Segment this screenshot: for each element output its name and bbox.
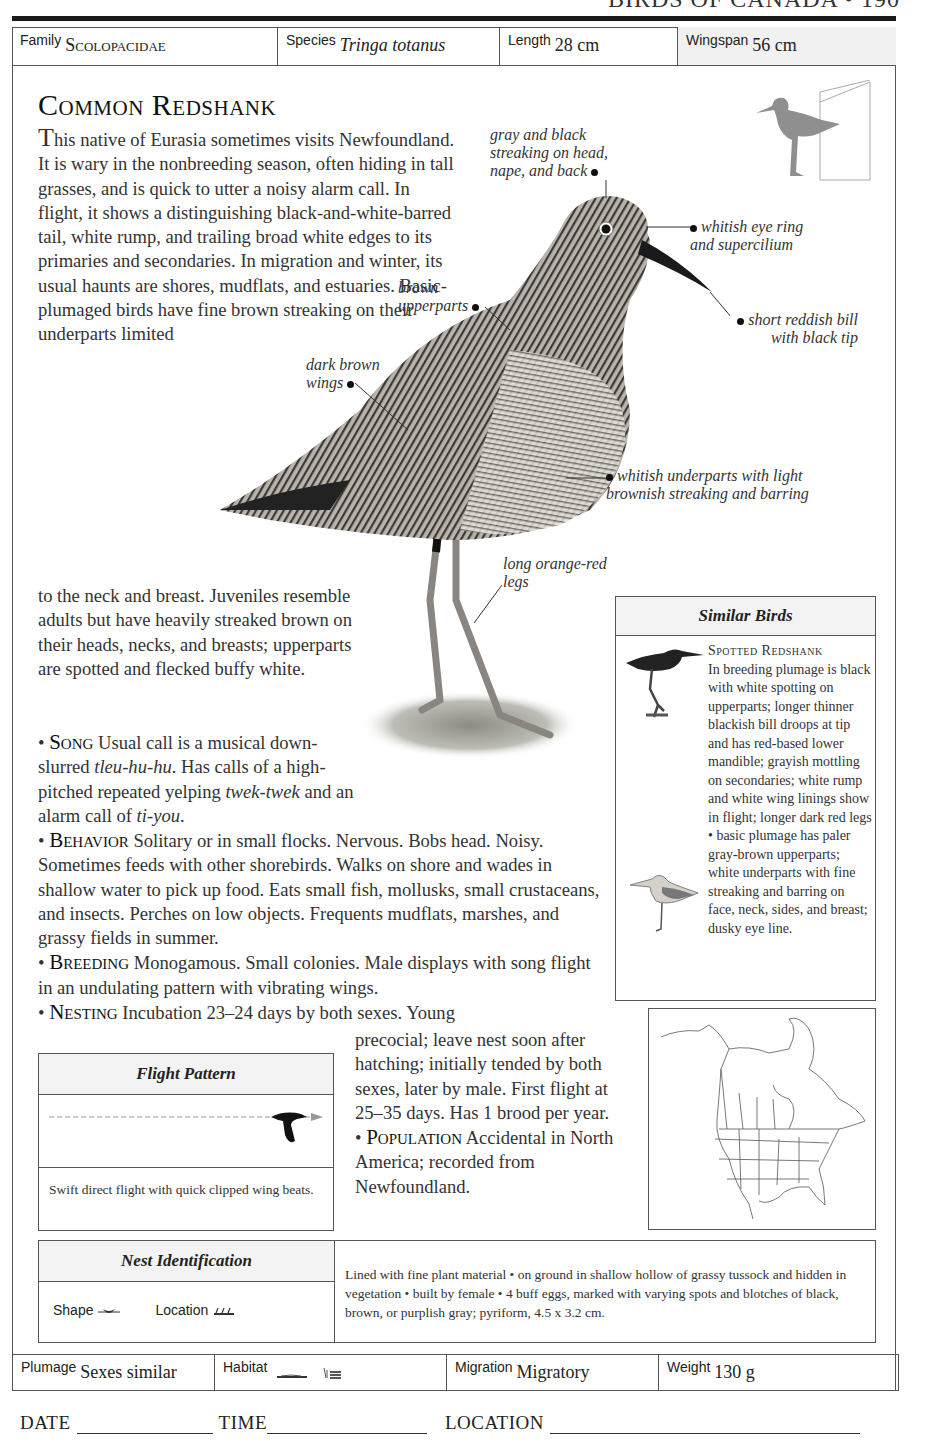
spotted-redshank-basic-icon: [628, 871, 702, 937]
similar-bird-name: Spotted Redshank: [708, 642, 874, 661]
callout-eye: whitish eye ring and supercilium: [690, 218, 830, 254]
behavior-breeding-section: • Behavior Solitary or in small flocks. …: [38, 828, 608, 1025]
flight-path-icon: [39, 1095, 333, 1167]
similar-birds-box: Similar Birds Spotted Redshank In breedi…: [615, 596, 876, 1001]
nest-identification-box: Nest Identification Shape Location Lined…: [38, 1240, 876, 1343]
plumage-value: Sexes similar: [80, 1362, 177, 1382]
population-paragraph: • Population Accidental in North America…: [355, 1125, 635, 1199]
breeding-heading: Breeding: [49, 950, 129, 974]
wingspan-label: Wingspan: [686, 32, 748, 48]
flight-pattern-description: Swift direct flight with quick clipped w…: [39, 1168, 333, 1211]
callout-upperparts: brown upperparts: [398, 279, 488, 315]
running-head: BIRDS OF CANADA • 190: [560, 0, 900, 13]
family-value: Scolopacidae: [65, 35, 166, 55]
species-label: Species: [286, 32, 336, 48]
species-cell: SpeciesTringa totanus: [278, 27, 500, 65]
intro-dropcap: T: [38, 123, 54, 152]
weight-value: 130 g: [714, 1362, 755, 1382]
cup-nest-icon: [97, 1305, 121, 1317]
shore-icon: [275, 1366, 309, 1380]
spotted-redshank-breeding-icon: [624, 645, 706, 725]
callout-dot: [591, 169, 598, 176]
flight-pattern-heading: Flight Pattern: [39, 1054, 333, 1095]
nest-shape: Shape: [53, 1302, 121, 1318]
callout-dot: [606, 474, 613, 481]
callout-dot: [472, 304, 479, 311]
species-title: Common Redshank: [38, 88, 276, 122]
ground-grass-icon: [212, 1305, 236, 1317]
nesting-paragraph-rest: precocial; leave nest soon after hatchin…: [355, 1028, 635, 1125]
weight-cell: Weight130 g: [659, 1355, 898, 1390]
length-value: 28 cm: [555, 35, 600, 55]
similar-bird-description: Spotted Redshank In breeding plumage is …: [708, 642, 874, 938]
nesting-heading: Nesting: [49, 1000, 118, 1024]
top-rule: [12, 16, 896, 21]
nest-identification-left: Nest Identification Shape Location: [39, 1241, 335, 1342]
callout-dot: [737, 318, 744, 325]
wingspan-cell: Wingspan56 cm: [678, 27, 896, 65]
north-america-map-icon: [649, 1009, 874, 1228]
date-field[interactable]: [77, 1419, 213, 1434]
time-label: TIME: [219, 1412, 267, 1434]
callout-head: gray and black streaking on head, nape, …: [490, 126, 630, 180]
observation-log: DATE TIME LOCATION: [20, 1412, 900, 1434]
wingspan-value: 56 cm: [752, 35, 797, 55]
plumage-cell: PlumageSexes similar: [13, 1355, 215, 1390]
plumage-label: Plumage: [21, 1359, 76, 1375]
species-value: Tringa totanus: [340, 35, 446, 55]
bird-size-silhouette-icon: [752, 80, 882, 184]
range-map: [648, 1008, 876, 1230]
callout-underparts: whitish underparts with light brownish s…: [606, 467, 836, 503]
time-field[interactable]: [267, 1419, 427, 1434]
nest-identification-heading: Nest Identification: [39, 1241, 334, 1282]
breeding-paragraph: • Breeding Monogamous. Small colonies. M…: [38, 950, 608, 1000]
family-label: Family: [20, 32, 61, 48]
length-label: Length: [508, 32, 551, 48]
weight-label: Weight: [667, 1359, 710, 1375]
callout-wings: dark brown wings: [306, 356, 396, 392]
nest-location: Location: [155, 1302, 236, 1318]
habitat-label: Habitat: [223, 1359, 267, 1375]
nest-description: Lined with fine plant material • on grou…: [335, 1241, 875, 1342]
bottom-data-row: PlumageSexes similar Habitat MigrationMi…: [12, 1354, 899, 1391]
flight-pattern-box: Flight Pattern Swift direct flight with …: [38, 1053, 334, 1231]
nesting-population-column: precocial; leave nest soon after hatchin…: [355, 1028, 635, 1199]
location-label: LOCATION: [445, 1412, 544, 1434]
habitat-cell: Habitat: [215, 1355, 447, 1390]
song-heading: Song: [49, 730, 93, 754]
length-cell: Length28 cm: [500, 27, 678, 65]
behavior-heading: Behavior: [49, 828, 129, 852]
song-section: • Song Usual call is a musical down-slur…: [38, 730, 368, 828]
date-label: DATE: [20, 1412, 71, 1434]
callout-legs: long orange-red legs: [503, 555, 623, 591]
family-cell: FamilyScolopacidae: [12, 27, 278, 65]
population-heading: Population: [366, 1125, 462, 1149]
behavior-paragraph: • Behavior Solitary or in small flocks. …: [38, 828, 608, 950]
location-field[interactable]: [550, 1419, 860, 1434]
taxonomy-row: FamilyScolopacidae SpeciesTringa totanus…: [12, 27, 896, 66]
marsh-water-icon: [321, 1366, 343, 1380]
flight-pattern-diagram: [39, 1095, 333, 1168]
migration-label: Migration: [455, 1359, 513, 1375]
migration-cell: MigrationMigratory: [447, 1355, 659, 1390]
similar-bird-text: In breeding plumage is black with white …: [708, 661, 874, 939]
intro-continuation: to the neck and breast. Juveniles resemb…: [38, 584, 368, 681]
similar-birds-heading: Similar Birds: [616, 597, 875, 636]
callout-dot: [690, 225, 697, 232]
nesting-paragraph-start: • Nesting Incubation 23–24 days by both …: [38, 1000, 608, 1025]
migration-value: Migratory: [517, 1362, 590, 1382]
callout-bill: short reddish bill with black tip: [728, 311, 858, 347]
nest-stats: Shape Location: [39, 1282, 334, 1338]
callout-dot: [347, 381, 354, 388]
